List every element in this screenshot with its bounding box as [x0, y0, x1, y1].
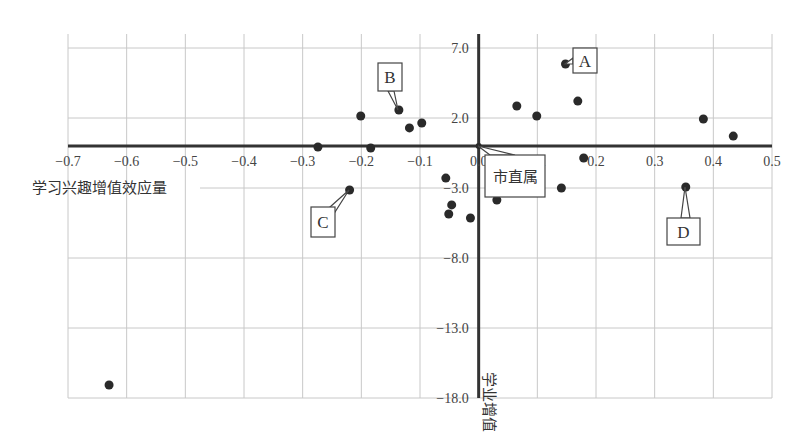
callout-pointer — [388, 91, 398, 110]
x-axis-title: 学习兴趣增值效应量 — [32, 179, 167, 197]
scatter-chart: −0.7−0.6−0.5−0.4−0.3−0.2−0.10.00.10.20.3… — [0, 0, 805, 436]
data-point — [512, 101, 521, 110]
data-point — [444, 210, 453, 219]
data-point — [447, 200, 456, 209]
x-tick-label: 0.5 — [763, 154, 781, 169]
x-tick-labels: −0.7−0.6−0.5−0.4−0.3−0.2−0.10.00.10.20.3… — [55, 154, 780, 169]
y-axis-title: 学业增值 — [480, 372, 498, 432]
callout-pointer — [681, 187, 690, 218]
callout-d: D — [667, 187, 700, 245]
x-tick-label: 0.3 — [646, 154, 664, 169]
data-point — [532, 112, 541, 121]
callout-text: A — [579, 52, 592, 71]
data-point — [313, 142, 322, 151]
callout-c: C — [311, 190, 349, 237]
data-point — [441, 174, 450, 183]
callout-a: A — [565, 48, 597, 73]
data-point — [366, 143, 375, 152]
x-tick-label: 0.4 — [705, 154, 723, 169]
data-point — [466, 213, 475, 222]
y-tick-label: −18.0 — [436, 391, 468, 406]
x-tick-label: 0.2 — [587, 154, 605, 169]
data-point — [405, 123, 414, 132]
data-point — [557, 184, 566, 193]
y-tick-label: 7.0 — [451, 41, 469, 56]
data-point — [699, 114, 708, 123]
data-point — [105, 380, 114, 389]
y-tick-label: −3.0 — [443, 181, 468, 196]
callout-text: D — [677, 223, 689, 242]
y-tick-label: −13.0 — [436, 321, 468, 336]
x-tick-label: −0.5 — [173, 154, 198, 169]
data-point — [417, 119, 426, 128]
data-point — [579, 154, 588, 163]
x-tick-label: −0.4 — [231, 154, 256, 169]
callout-text: B — [384, 68, 395, 87]
x-tick-label: −0.3 — [290, 154, 315, 169]
data-point — [573, 97, 582, 106]
callout-b: B — [378, 63, 402, 110]
x-tick-label: −0.6 — [114, 154, 139, 169]
y-tick-label: −8.0 — [443, 251, 468, 266]
x-tick-label: −0.2 — [349, 154, 374, 169]
data-point — [356, 112, 365, 121]
callout-text: 市直属 — [493, 168, 538, 186]
x-tick-label: −0.7 — [55, 154, 80, 169]
y-tick-label: 2.0 — [451, 111, 469, 126]
callout-text: C — [317, 213, 328, 232]
data-points — [105, 59, 738, 389]
data-point — [729, 132, 738, 141]
y-tick-labels: 7.02.0−3.0−8.0−13.0−18.0 — [436, 41, 468, 406]
grid-lines — [68, 34, 772, 398]
x-tick-label: −0.1 — [407, 154, 432, 169]
